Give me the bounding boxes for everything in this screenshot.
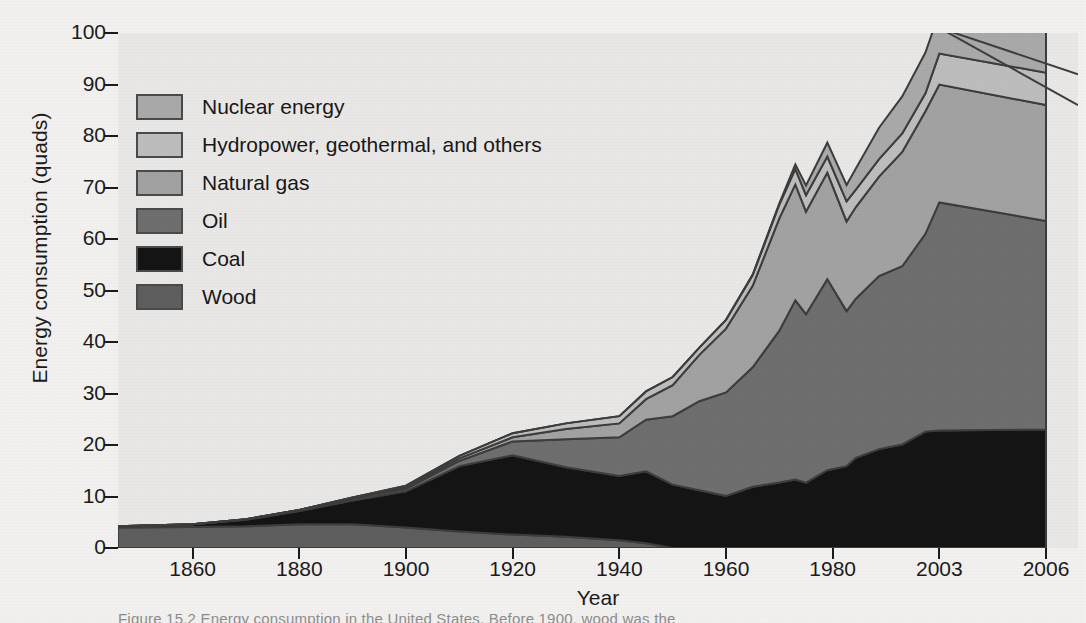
x-tick-label: 1920 (468, 557, 558, 581)
y-tick (104, 444, 118, 446)
y-tick-label: 80 (46, 123, 106, 147)
y-tick-label: 30 (46, 381, 106, 405)
legend-item: Natural gas (136, 164, 542, 202)
y-tick-label: 100 (46, 20, 106, 44)
y-tick-label: 60 (46, 226, 106, 250)
x-tick-label: 1880 (254, 557, 344, 581)
legend-item: Oil (136, 202, 542, 240)
x-tick-label: 1980 (788, 557, 878, 581)
x-tick-label: 1940 (574, 557, 664, 581)
legend-item: Hydropower, geothermal, and others (136, 126, 542, 164)
figure-caption: Figure 15.2 Energy consumption in the Un… (0, 610, 1086, 623)
y-tick-label: 50 (46, 278, 106, 302)
legend-item-label: Wood (202, 285, 256, 309)
legend-swatch (136, 170, 183, 196)
legend: Nuclear energyHydropower, geothermal, an… (136, 88, 542, 316)
y-tick (104, 341, 118, 343)
y-tick (104, 84, 118, 86)
y-tick-label: 70 (46, 175, 106, 199)
legend-item-label: Oil (202, 209, 228, 233)
x-tick-label: 1960 (681, 557, 771, 581)
legend-swatch (136, 132, 183, 158)
y-tick-label: 10 (46, 484, 106, 508)
legend-item-label: Nuclear energy (202, 95, 344, 119)
y-tick-label: 40 (46, 329, 106, 353)
x-tick-label: 2006 (1001, 557, 1086, 581)
legend-item-label: Natural gas (202, 171, 309, 195)
y-tick (104, 135, 118, 137)
legend-swatch (136, 208, 183, 234)
y-tick-label: 20 (46, 432, 106, 456)
x-tick-label: 1900 (361, 557, 451, 581)
energy-consumption-figure: Energy consumption (quads) 0102030405060… (0, 0, 1086, 623)
legend-swatch (136, 246, 183, 272)
x-tick-label: 2003 (894, 557, 984, 581)
y-tick (104, 187, 118, 189)
legend-item-label: Coal (202, 247, 245, 271)
y-tick (104, 496, 118, 498)
y-tick (104, 290, 118, 292)
legend-swatch (136, 284, 183, 310)
y-tick-label: 90 (46, 72, 106, 96)
y-tick (104, 547, 118, 549)
y-tick (104, 32, 118, 34)
y-tick (104, 393, 118, 395)
legend-item: Nuclear energy (136, 88, 542, 126)
legend-item: Coal (136, 240, 542, 278)
legend-item: Wood (136, 278, 542, 316)
legend-swatch (136, 94, 183, 120)
legend-item-label: Hydropower, geothermal, and others (202, 133, 542, 157)
y-tick-label: 0 (46, 535, 106, 559)
x-tick-label: 1860 (148, 557, 238, 581)
y-tick (104, 238, 118, 240)
x-axis-title: Year (118, 586, 1078, 610)
